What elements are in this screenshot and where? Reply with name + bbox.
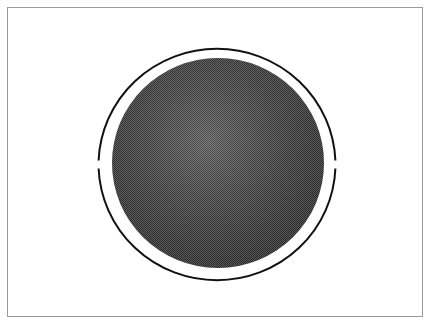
inner-disk (112, 58, 324, 268)
ring-disk-figure (0, 0, 431, 324)
figure-canvas (0, 0, 431, 324)
